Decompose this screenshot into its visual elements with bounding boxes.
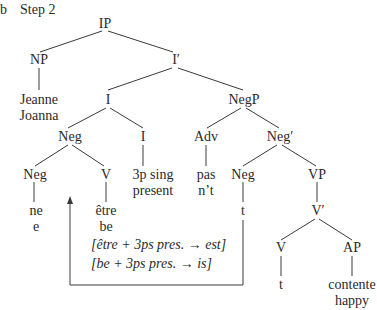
node-v-etre: V	[101, 167, 111, 183]
gloss-e: e	[33, 219, 39, 235]
node-neg-trace-label: Neg	[231, 167, 254, 183]
annotation-en: [be + 3ps pres. → is]	[91, 256, 212, 272]
infl-3p-sing: 3p sing	[133, 167, 174, 183]
annotation-fr: [être + 3ps pres. → est]	[91, 237, 226, 253]
gloss-happy: happy	[335, 293, 369, 309]
example-label: b	[0, 2, 7, 18]
node-i-upper: I	[106, 92, 111, 108]
word-etre: être	[96, 203, 117, 219]
infl-present: present	[133, 183, 173, 199]
gloss-joanna: Joanna	[20, 108, 59, 124]
node-ap: AP	[343, 240, 361, 256]
node-ip: IP	[99, 16, 111, 32]
neg-trace: t	[241, 203, 245, 219]
node-neg-ne: Neg	[23, 167, 46, 183]
node-i-bar: I′	[172, 52, 180, 68]
word-ne: ne	[29, 203, 42, 219]
gloss-be: be	[99, 219, 112, 235]
node-v-bar: V′	[311, 203, 324, 219]
node-neg-bar: Neg′	[267, 129, 293, 145]
node-i-lower: I	[141, 129, 146, 145]
node-adv: Adv	[194, 129, 218, 145]
word-contente: contente	[328, 277, 375, 293]
step-title: Step 2	[20, 2, 55, 18]
v-trace: t	[279, 277, 283, 293]
node-v-lower: V	[276, 240, 286, 256]
word-pas: pas	[197, 167, 216, 183]
node-negp: NegP	[228, 92, 259, 108]
gloss-nt: n’t	[198, 183, 213, 199]
node-vp: VP	[308, 167, 326, 183]
word-jeanne: Jeanne	[20, 92, 58, 108]
node-np: NP	[30, 52, 48, 68]
node-neg-complex: Neg	[58, 129, 81, 145]
